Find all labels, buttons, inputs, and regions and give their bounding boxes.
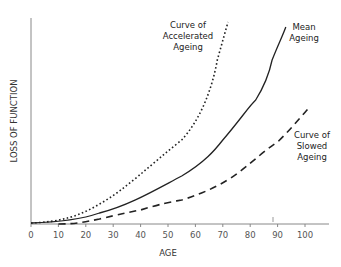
annotation-line: Ageing <box>289 33 319 43</box>
tick-label: 80 <box>245 230 256 240</box>
x-axis-title: AGE <box>159 248 177 258</box>
curve-mean-ageing <box>31 27 286 223</box>
tick-label: 90 <box>272 230 283 240</box>
annotation-line: Slowed <box>297 141 328 151</box>
tick-label: 40 <box>135 230 146 240</box>
tick-label: 20 <box>80 230 91 240</box>
ageing-chart: 0 10 20 30 40 50 60 70 80 90 100 AGE LOS… <box>0 0 341 267</box>
annotation-line: Curve of <box>294 130 331 140</box>
tick-label: 60 <box>190 230 201 240</box>
annotation-line: Curve of <box>170 20 207 30</box>
x-tick-labels: 0 10 20 30 40 50 60 70 80 90 100 <box>28 230 313 240</box>
y-axis-title: LOSS OF FUNCTION <box>9 79 19 162</box>
annotation-slowed: Curve of Slowed Ageing <box>294 130 331 162</box>
curve-accelerated-ageing <box>31 22 228 223</box>
tick-label: 0 <box>28 230 33 240</box>
tick-label: 100 <box>297 230 313 240</box>
x-ticks <box>31 217 305 227</box>
curve-slowed-ageing <box>58 106 310 224</box>
annotation-line: Mean <box>292 22 315 32</box>
tick-label: 30 <box>108 230 119 240</box>
annotation-line: Accelerated <box>163 31 214 41</box>
tick-label: 70 <box>217 230 228 240</box>
annotation-line: Ageing <box>297 152 327 162</box>
annotation-mean: Mean Ageing <box>289 22 319 43</box>
tick-label: 50 <box>163 230 174 240</box>
tick-label: 10 <box>53 230 64 240</box>
annotation-accelerated: Curve of Accelerated Ageing <box>163 20 214 52</box>
annotation-line: Ageing <box>173 42 203 52</box>
